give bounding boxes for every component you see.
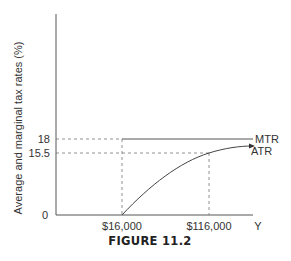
y-tick-18: 18 (38, 133, 50, 145)
y-tick-15-5: 15.5 (29, 147, 50, 159)
atr-curve (122, 146, 252, 215)
x-axis-label: Y (254, 220, 262, 232)
figure-caption: FIGURE 11.2 (108, 234, 191, 248)
mtr-label: MTR (255, 133, 279, 145)
atr-label: ATR (251, 145, 272, 157)
tax-rate-chart: 18 15.5 0 $16,000 $116,000 Y MTR ATR Ave… (0, 0, 291, 261)
x-tick-116000: $116,000 (186, 220, 231, 232)
y-tick-0: 0 (42, 209, 48, 221)
x-tick-16000: $16,000 (102, 220, 142, 232)
y-axis-label: Average and marginal tax rates (%) (12, 42, 24, 215)
